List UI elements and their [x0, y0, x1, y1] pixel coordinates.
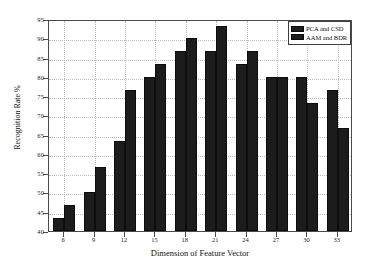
bar-aam-and-bdr-21 [216, 26, 227, 231]
legend-swatch-icon [291, 34, 304, 40]
bar-group [114, 21, 136, 231]
bars-layer [49, 21, 351, 231]
plot-area [48, 20, 352, 232]
bar-group [205, 21, 227, 231]
y-tick-label: 90 [14, 35, 44, 42]
legend-item[interactable]: PCA and CSD [291, 25, 347, 33]
y-tick-label: 40 [14, 228, 44, 235]
bar-aam-and-bdr-27 [277, 77, 288, 231]
bar-pca-and-csd-18 [175, 51, 186, 231]
bar-aam-and-bdr-9 [95, 167, 106, 231]
x-tick-label: 33 [325, 236, 349, 243]
bar-aam-and-bdr-15 [155, 64, 166, 231]
bar-aam-and-bdr-12 [125, 90, 136, 231]
y-tick-label: 50 [14, 189, 44, 196]
x-tick-label: 18 [173, 236, 197, 243]
legend-item[interactable]: AAM and BDR [291, 33, 347, 41]
y-tick-label: 45 [14, 209, 44, 216]
bar-group [144, 21, 166, 231]
bar-group [266, 21, 288, 231]
bar-pca-and-csd-15 [144, 77, 155, 231]
bar-group [296, 21, 318, 231]
bar-aam-and-bdr-24 [247, 51, 258, 231]
bar-pca-and-csd-30 [296, 77, 307, 231]
x-tick-label: 15 [142, 236, 166, 243]
y-axis-label: Recognition Rate % [13, 58, 22, 178]
bar-group [175, 21, 197, 231]
x-tick-label: 27 [264, 236, 288, 243]
bar-aam-and-bdr-6 [64, 205, 75, 231]
bar-pca-and-csd-12 [114, 141, 125, 231]
bar-pca-and-csd-24 [236, 64, 247, 231]
bar-pca-and-csd-9 [84, 192, 95, 231]
bar-group [327, 21, 349, 231]
legend-label: PCA and CSD [306, 25, 344, 32]
x-tick-label: 9 [82, 236, 106, 243]
bar-group [53, 21, 75, 231]
x-tick-label: 12 [112, 236, 136, 243]
legend-swatch-icon [291, 26, 304, 32]
x-tick-label: 30 [294, 236, 318, 243]
bar-pca-and-csd-33 [327, 90, 338, 231]
x-tick-label: 21 [203, 236, 227, 243]
x-tick-label: 24 [234, 236, 258, 243]
bar-pca-and-csd-27 [266, 77, 277, 231]
bar-pca-and-csd-21 [205, 51, 216, 231]
x-tick-label: 6 [51, 236, 75, 243]
bar-aam-and-bdr-33 [338, 128, 349, 231]
bar-pca-and-csd-6 [53, 218, 64, 231]
bar-aam-and-bdr-18 [186, 38, 197, 231]
bar-aam-and-bdr-30 [307, 103, 318, 231]
legend-label: AAM and BDR [306, 34, 347, 41]
x-axis-label: Dimension of Feature Vector [48, 248, 352, 258]
bar-group [236, 21, 258, 231]
bar-group [84, 21, 106, 231]
chart-figure: 404550556065707580859095 691215182124273… [0, 0, 369, 271]
y-tick-label: 95 [14, 16, 44, 23]
legend: PCA and CSDAAM and BDR [288, 21, 351, 45]
